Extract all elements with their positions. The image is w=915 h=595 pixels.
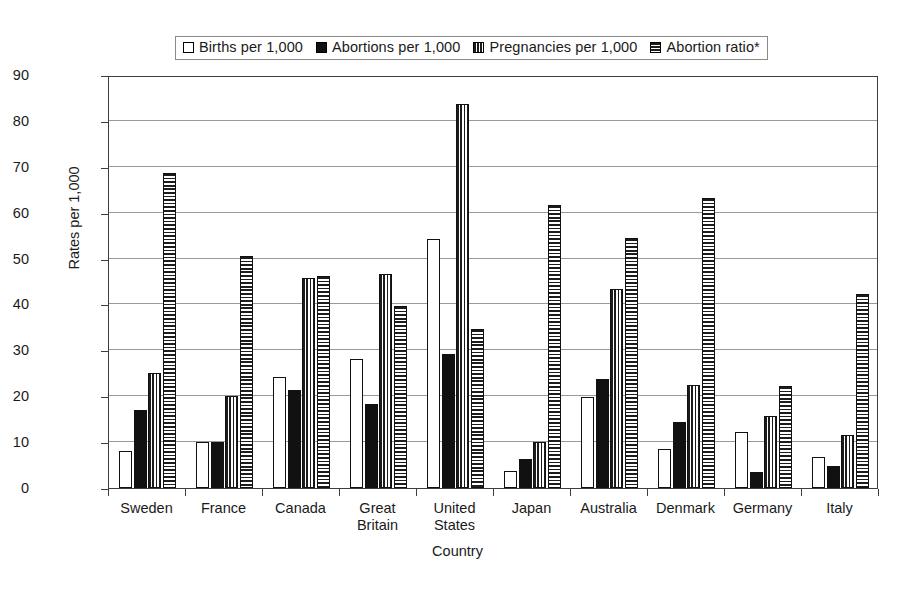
bar-group <box>725 77 802 488</box>
bar-group <box>802 77 879 488</box>
legend-label: Pregnancies per 1,000 <box>489 40 637 55</box>
x-tick-mark <box>570 489 571 496</box>
bar <box>519 459 532 488</box>
x-tick-mark <box>185 489 186 496</box>
legend-swatch-solid-black-icon <box>316 42 327 53</box>
bar <box>456 104 469 488</box>
bar <box>812 457 825 488</box>
bar <box>225 396 238 488</box>
x-category-label: Great Britain <box>339 500 416 534</box>
bar-group <box>494 77 571 488</box>
x-tick-mark <box>262 489 263 496</box>
bar <box>288 390 301 488</box>
x-tick-mark <box>339 489 340 496</box>
bar <box>610 289 623 488</box>
bar <box>596 379 609 488</box>
bar-group <box>571 77 648 488</box>
y-tick-label: 90 <box>0 68 29 83</box>
bar <box>163 173 176 488</box>
x-category-label: Sweden <box>108 500 185 517</box>
x-tick-mark <box>108 489 109 496</box>
bar <box>827 466 840 488</box>
bar <box>317 276 330 488</box>
x-tick-mark <box>647 489 648 496</box>
legend-label: Abortions per 1,000 <box>332 40 460 55</box>
x-tick-mark <box>801 489 802 496</box>
bar <box>427 239 440 488</box>
bar <box>581 397 594 488</box>
x-category-label: Canada <box>262 500 339 517</box>
bar <box>134 410 147 488</box>
x-category-label: Japan <box>493 500 570 517</box>
bar <box>856 294 869 488</box>
y-tick-label: 60 <box>0 206 29 221</box>
y-tick-label: 20 <box>0 389 29 404</box>
legend-swatch-horizontal-stripes-icon <box>650 42 661 53</box>
bar <box>148 373 161 488</box>
legend-swatch-open-icon <box>183 42 194 53</box>
bar <box>504 471 517 488</box>
bar <box>240 256 253 488</box>
legend-label: Abortion ratio* <box>666 40 759 55</box>
bar <box>702 198 715 488</box>
bar-group <box>340 77 417 488</box>
plot-area <box>108 76 878 489</box>
bar <box>548 205 561 488</box>
x-category-label: Australia <box>570 500 647 517</box>
bar <box>658 449 671 488</box>
x-tick-mark <box>724 489 725 496</box>
y-tick-label: 0 <box>0 481 29 496</box>
x-tick-mark <box>416 489 417 496</box>
bar <box>841 435 854 488</box>
bar <box>119 451 132 488</box>
bar-group <box>648 77 725 488</box>
x-tick-mark <box>493 489 494 496</box>
bar <box>673 422 686 488</box>
y-tick-label: 70 <box>0 160 29 175</box>
bar <box>625 238 638 488</box>
chart-legend: Births per 1,000Abortions per 1,000Pregn… <box>175 36 768 60</box>
bar-group <box>109 77 186 488</box>
bar-group <box>417 77 494 488</box>
legend-entry: Abortions per 1,000 <box>316 40 460 55</box>
bar <box>735 432 748 488</box>
bar <box>533 442 546 488</box>
x-category-label: Germany <box>724 500 801 517</box>
y-axis-title: Rates per 1,000 <box>66 138 82 298</box>
bar-group <box>186 77 263 488</box>
legend-entry: Births per 1,000 <box>183 40 303 55</box>
bar <box>764 416 777 488</box>
bars-layer <box>109 77 877 488</box>
bar <box>211 442 224 488</box>
bar <box>442 354 455 488</box>
legend-entry: Pregnancies per 1,000 <box>473 40 637 55</box>
legend-entry: Abortion ratio* <box>650 40 759 55</box>
y-tick-label: 50 <box>0 252 29 267</box>
bar-group <box>263 77 340 488</box>
y-tick-label: 30 <box>0 343 29 358</box>
x-category-label: France <box>185 500 262 517</box>
legend-swatch-vertical-stripes-icon <box>473 42 484 53</box>
x-axis-title: Country <box>0 543 915 559</box>
x-tick-mark <box>878 489 879 496</box>
bar <box>750 472 763 488</box>
bar <box>379 274 392 488</box>
bar <box>350 359 363 488</box>
y-tick-label: 80 <box>0 114 29 129</box>
y-tick-label: 40 <box>0 297 29 312</box>
x-category-label: Denmark <box>647 500 724 517</box>
bar <box>471 329 484 488</box>
bar <box>394 306 407 488</box>
bar <box>365 404 378 488</box>
bar <box>273 377 286 488</box>
bar <box>302 278 315 488</box>
x-category-label: Italy <box>801 500 878 517</box>
x-category-label: United States <box>416 500 493 534</box>
bar <box>196 442 209 488</box>
legend-label: Births per 1,000 <box>199 40 303 55</box>
y-tick-label: 10 <box>0 435 29 450</box>
bar <box>687 385 700 488</box>
bar <box>779 386 792 488</box>
